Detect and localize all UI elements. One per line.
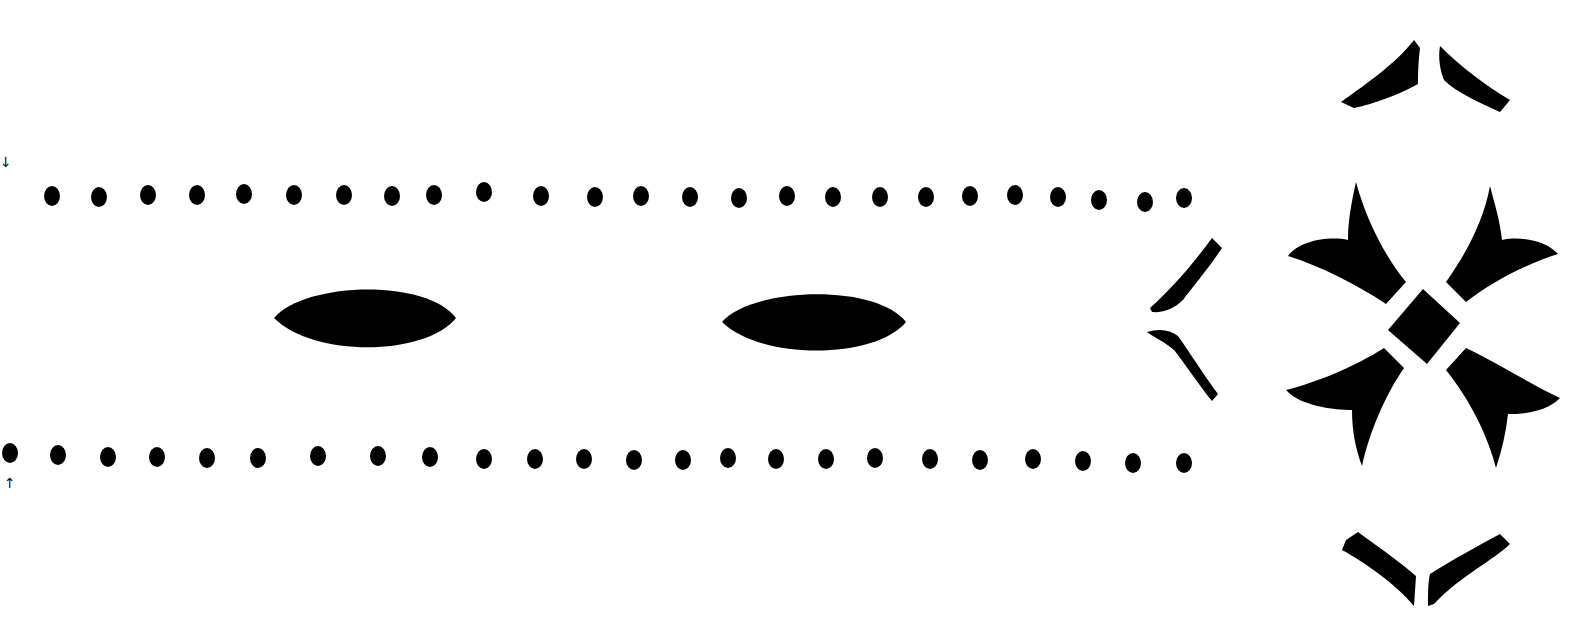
arrow-down-mark: ↓ [0,155,12,169]
dot [149,447,165,467]
dot [336,185,352,205]
dot [818,449,834,469]
dot [576,449,592,469]
dot [720,448,736,468]
dot [1125,453,1141,473]
dot [972,450,988,470]
dot [768,449,784,469]
dot [476,182,492,202]
dot [825,187,841,207]
dot [626,450,642,470]
stencil-pattern-canvas [0,0,1593,642]
dot [384,186,400,206]
dot [918,187,934,207]
dot [1050,187,1066,207]
dot [1007,185,1023,205]
dot [962,186,978,206]
dot [476,449,492,469]
dot [286,185,302,205]
dot [922,449,938,469]
dot [633,186,649,206]
dot [44,186,60,206]
dot [50,445,66,465]
dot [527,449,543,469]
dot [91,187,107,207]
dot [370,446,386,466]
dot [100,447,116,467]
dot [310,446,326,466]
dot [1091,190,1107,210]
dot [872,187,888,207]
dot [1025,449,1041,469]
dot [426,185,442,205]
dot [1075,451,1091,471]
dot [422,447,438,467]
dot [587,187,603,207]
dot [731,188,747,208]
dot [250,448,266,468]
dot [189,185,205,205]
dot [236,184,252,204]
dot [779,186,795,206]
dot [199,448,215,468]
dot [1176,453,1192,473]
dot [1176,188,1192,208]
dot [2,443,18,463]
dot [140,185,156,205]
dot [533,186,549,206]
dot [867,448,883,468]
dot [675,450,691,470]
arrow-up-mark: ↑ [4,476,16,490]
dot [682,187,698,207]
dot [1137,192,1153,212]
